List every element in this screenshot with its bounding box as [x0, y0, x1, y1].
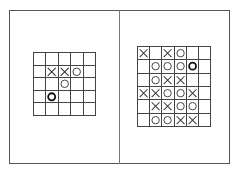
- board-cell[interactable]: [150, 87, 162, 100]
- o-mark-icon: [175, 47, 186, 59]
- board-cell[interactable]: [175, 47, 187, 60]
- board-cell[interactable]: [59, 53, 71, 66]
- o-mark-highlighted-icon: [46, 91, 57, 103]
- board-cell[interactable]: [46, 66, 58, 79]
- board-cell[interactable]: [199, 47, 211, 60]
- board-cell[interactable]: [187, 60, 199, 73]
- board-cell[interactable]: [187, 87, 199, 100]
- board-cell[interactable]: [175, 87, 187, 100]
- board-cell[interactable]: [46, 53, 58, 66]
- o-mark-icon: [162, 60, 173, 72]
- board-cell[interactable]: [150, 100, 162, 113]
- x-mark-icon: [187, 114, 198, 126]
- board-cell[interactable]: [138, 87, 150, 100]
- board-cell[interactable]: [71, 103, 83, 116]
- o-mark-icon: [187, 100, 198, 112]
- board-cell[interactable]: [34, 103, 46, 116]
- x-mark-icon: [46, 66, 57, 78]
- board-cell[interactable]: [84, 53, 96, 66]
- board-cell[interactable]: [162, 114, 174, 127]
- board-cell[interactable]: [59, 91, 71, 104]
- board-cell[interactable]: [71, 53, 83, 66]
- x-mark-icon: [162, 100, 173, 112]
- game-board-left: [33, 52, 96, 116]
- o-mark-icon: [175, 87, 186, 99]
- board-cell[interactable]: [59, 103, 71, 116]
- x-mark-icon: [162, 47, 173, 59]
- board-cell[interactable]: [138, 100, 150, 113]
- board-cell[interactable]: [138, 114, 150, 127]
- board-cell[interactable]: [199, 87, 211, 100]
- x-mark-icon: [187, 87, 198, 99]
- board-cell[interactable]: [71, 91, 83, 104]
- o-mark-icon: [175, 60, 186, 72]
- board-cell[interactable]: [46, 103, 58, 116]
- game-board-right: [137, 46, 211, 127]
- panel-divider: [119, 10, 120, 164]
- board-cell[interactable]: [175, 100, 187, 113]
- x-mark-icon: [150, 100, 161, 112]
- board-cell[interactable]: [175, 114, 187, 127]
- board-cell[interactable]: [175, 74, 187, 87]
- board-cell[interactable]: [84, 103, 96, 116]
- board-cell[interactable]: [150, 60, 162, 73]
- board-cell[interactable]: [162, 74, 174, 87]
- board-cell[interactable]: [150, 47, 162, 60]
- x-mark-icon: [138, 87, 149, 99]
- o-mark-icon: [162, 114, 173, 126]
- o-mark-icon: [71, 66, 82, 78]
- board-cell[interactable]: [150, 114, 162, 127]
- o-mark-highlighted-icon: [187, 60, 198, 72]
- board-cell[interactable]: [175, 60, 187, 73]
- board-cell[interactable]: [34, 78, 46, 91]
- board-cell[interactable]: [187, 100, 199, 113]
- board-cell[interactable]: [138, 47, 150, 60]
- board-cell[interactable]: [199, 100, 211, 113]
- board-cell[interactable]: [162, 100, 174, 113]
- board-cell[interactable]: [46, 91, 58, 104]
- board-cell[interactable]: [34, 66, 46, 79]
- board-cell[interactable]: [59, 66, 71, 79]
- board-cell[interactable]: [34, 53, 46, 66]
- x-mark-icon: [138, 47, 149, 59]
- o-mark-icon: [59, 78, 70, 90]
- board-cell[interactable]: [199, 60, 211, 73]
- board-cell[interactable]: [84, 78, 96, 91]
- x-mark-icon: [59, 66, 70, 78]
- board-cell[interactable]: [162, 47, 174, 60]
- o-mark-icon: [150, 74, 161, 86]
- board-cell[interactable]: [84, 91, 96, 104]
- board-cell[interactable]: [34, 91, 46, 104]
- o-mark-icon: [150, 60, 161, 72]
- x-mark-icon: [150, 87, 161, 99]
- x-mark-icon: [175, 74, 186, 86]
- board-cell[interactable]: [187, 114, 199, 127]
- board-cell[interactable]: [162, 87, 174, 100]
- x-mark-icon: [175, 114, 186, 126]
- board-cell[interactable]: [199, 114, 211, 127]
- board-cell[interactable]: [46, 78, 58, 91]
- board-cell[interactable]: [138, 74, 150, 87]
- board-cell[interactable]: [59, 78, 71, 91]
- o-mark-icon: [162, 87, 173, 99]
- board-cell[interactable]: [138, 60, 150, 73]
- board-cell[interactable]: [71, 78, 83, 91]
- board-cell[interactable]: [187, 47, 199, 60]
- board-cell[interactable]: [187, 74, 199, 87]
- o-mark-icon: [150, 114, 161, 126]
- o-mark-icon: [175, 100, 186, 112]
- board-cell[interactable]: [199, 74, 211, 87]
- x-mark-icon: [162, 74, 173, 86]
- board-cell[interactable]: [84, 66, 96, 79]
- board-cell[interactable]: [71, 66, 83, 79]
- board-cell[interactable]: [162, 60, 174, 73]
- board-cell[interactable]: [150, 74, 162, 87]
